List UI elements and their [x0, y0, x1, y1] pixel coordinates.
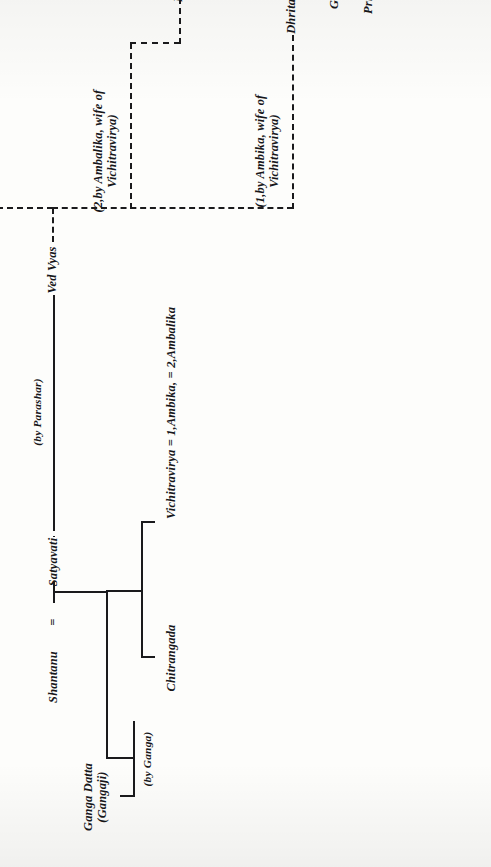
label-branch-1-line2: Vichitravirya) — [267, 114, 281, 188]
ved-vyas-descent-stem — [52, 208, 54, 242]
branch-drop-by-ganga — [106, 757, 134, 759]
node-vichitravirya[interactable]: Vichitravirya = 1,Ambika, = 2,Ambalika — [165, 307, 179, 519]
node-shantanu[interactable]: Shantanu — [47, 651, 61, 703]
node-gandhari-label: Gandhari = — [327, 0, 341, 9]
node-dhritarashtra[interactable]: Dhritarashtra — [285, 0, 299, 34]
descent-stem-shantanu — [53, 591, 107, 593]
equals-sign-shantanu-satyavati: = — [47, 618, 61, 625]
node-ganga-datta-line2: (Gangaji) — [95, 771, 109, 822]
label-branch-2-line1: (2,by Ambalika, wife of — [91, 90, 105, 213]
sibling-bar-shantanu-children — [106, 591, 108, 759]
connector-ganga-datta — [133, 721, 135, 797]
vyas-sons-spine-up — [0, 207, 53, 209]
ganga-datta-tick — [120, 795, 134, 797]
line-satyavati-to-ved-vyas — [53, 295, 55, 531]
node-ganga-datta[interactable]: Ganga Datta (Gangaji) — [82, 749, 110, 845]
branch-2-to-pandu — [179, 0, 181, 44]
label-branch-1-ambika: (1,by Ambika, wife of Vichitravirya) — [254, 71, 282, 231]
node-gandhari[interactable]: Gandhari = — [328, 0, 342, 9]
branch-line-ambalika — [130, 43, 132, 209]
label-branch-1-line1: (1,by Ambika, wife of — [253, 95, 267, 208]
tick-chitrangada — [141, 656, 155, 658]
scanned-page: Shantanu = Satyavati (by Ganga) Ganga Da… — [0, 0, 491, 867]
node-priya-duryodhani[interactable]: Priya Duryodhani — [362, 0, 376, 14]
sibling-bar-chitrangada-vichitravirya — [141, 522, 143, 658]
node-ganga-datta-line1: Ganga Datta — [81, 763, 95, 831]
node-ved-vyas[interactable]: Ved Vyas — [46, 246, 60, 293]
node-pandu[interactable]: Pandu = 1,Kunti, = 2,Madri — [172, 0, 186, 2]
label-branch-2-line2: Vichitravirya) — [105, 114, 119, 188]
label-by-parashar: (by Parashar) — [31, 378, 44, 445]
branch-line-ambika — [292, 35, 294, 209]
tick-vichitravirya — [141, 521, 155, 523]
node-satyavati[interactable]: Satyavati — [47, 538, 61, 587]
genealogy-canvas: Shantanu = Satyavati (by Ganga) Ganga Da… — [0, 0, 491, 867]
node-chitrangada[interactable]: Chitrangada — [165, 625, 179, 692]
descent-to-children — [106, 590, 142, 592]
label-by-ganga: (by Ganga) — [141, 732, 154, 787]
spacer5 — [53, 536, 55, 537]
branch-2-drop — [130, 42, 180, 44]
label-branch-2-ambalika: (2,by Ambalika, wife of Vichitravirya) — [92, 66, 120, 236]
